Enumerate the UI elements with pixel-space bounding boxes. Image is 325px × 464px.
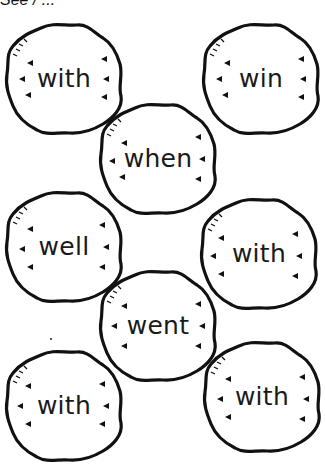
sight-word: win xyxy=(200,64,322,93)
cookie-word-card: with xyxy=(201,338,323,456)
sight-word: when xyxy=(97,144,219,173)
cut-off-heading: See / ... xyxy=(0,0,120,5)
sight-word: went xyxy=(97,311,219,340)
stray-dot xyxy=(50,338,52,340)
sight-word: with xyxy=(3,391,125,420)
sight-word: with xyxy=(201,382,323,411)
sight-word: with xyxy=(198,239,320,268)
sight-word: well xyxy=(3,232,125,261)
sight-word: with xyxy=(3,64,125,93)
cookie-word-card: with xyxy=(3,347,125,464)
